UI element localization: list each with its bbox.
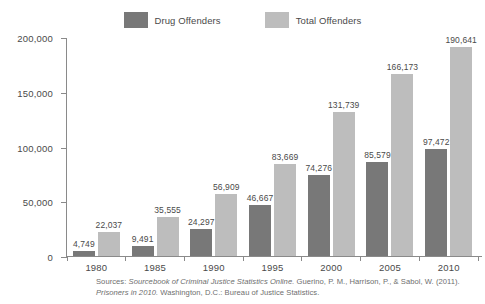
bar-value-label: 190,641 (445, 35, 476, 45)
bar-2000-drug[interactable]: 74,276 (308, 175, 330, 256)
x-axis-label-1985: 1985 (126, 262, 185, 273)
bar-2005-drug[interactable]: 85,579 (366, 162, 388, 256)
x-axis-label-2005: 2005 (361, 262, 420, 273)
bar-rect (366, 162, 388, 256)
bar-group-2000: 74,276131,739 (302, 38, 361, 256)
bar-1990-total[interactable]: 56,909 (215, 194, 237, 256)
chart-legend: Drug Offenders Total Offenders (0, 10, 485, 30)
bar-value-label: 74,276 (305, 163, 332, 173)
bar-rect (215, 194, 237, 256)
bar-1995-drug[interactable]: 46,667 (249, 205, 271, 256)
bar-rect (190, 229, 212, 256)
bar-value-label: 46,667 (247, 193, 274, 203)
legend-swatch-total-offenders (265, 12, 289, 28)
bar-1985-drug[interactable]: 9,491 (132, 246, 154, 256)
y-axis-tick-label: 100,000 (17, 142, 53, 153)
x-axis-label-1990: 1990 (184, 262, 243, 273)
bar-groups: 4,74922,0379,49135,55524,29756,90946,667… (67, 38, 478, 256)
bar-value-label: 24,297 (188, 217, 215, 227)
x-axis-label-2000: 2000 (302, 262, 361, 273)
bar-rect (391, 74, 413, 256)
legend-label-drug-offenders: Drug Offenders (155, 15, 221, 26)
bar-2005-total[interactable]: 166,173 (391, 74, 413, 256)
bar-group-2010: 97,472190,641 (419, 38, 478, 256)
source-note: Sources: Sourcebook of Criminal Justice … (96, 277, 479, 298)
x-axis-label-1995: 1995 (243, 262, 302, 273)
bar-value-label: 166,173 (387, 62, 418, 72)
source-title-2: Prisoners in 2010. (96, 288, 158, 297)
bar-group-1980: 4,74922,037 (67, 38, 126, 256)
bar-rect (450, 47, 472, 256)
bar-rect (274, 164, 296, 256)
y-axis-tick-label: 0 (48, 252, 53, 263)
bar-1985-total[interactable]: 35,555 (157, 217, 179, 256)
bar-value-label: 35,555 (154, 205, 181, 215)
bar-1995-total[interactable]: 83,669 (274, 164, 296, 256)
chart-plot-area: 050,000100,000150,000200,000 4,74922,037… (66, 38, 478, 257)
bar-2010-drug[interactable]: 97,472 (425, 149, 447, 256)
bar-rect (333, 112, 355, 256)
y-axis-tick-label: 150,000 (17, 87, 53, 98)
bar-rect (308, 175, 330, 256)
bar-rect (157, 217, 179, 256)
source-authors: Guerino, P. M., Harrison, P., & Sabol, W… (294, 277, 459, 286)
legend-item-total-offenders: Total Offenders (265, 12, 362, 28)
bar-1990-drug[interactable]: 24,297 (190, 229, 212, 256)
bar-group-1995: 46,66783,669 (243, 38, 302, 256)
y-axis-tick-label: 50,000 (23, 197, 53, 208)
bar-rect (73, 251, 95, 256)
source-publisher: Washington, D.C.: Bureau of Justice Stat… (158, 288, 319, 297)
bar-value-label: 131,739 (328, 100, 359, 110)
bar-value-label: 9,491 (132, 234, 154, 244)
bar-rect (425, 149, 447, 256)
x-axis-label-1980: 1980 (67, 262, 126, 273)
x-axis-labels: 1980198519901995200020052010 (67, 262, 478, 273)
x-axis-label-2010: 2010 (419, 262, 478, 273)
bar-1980-drug[interactable]: 4,749 (73, 251, 95, 256)
bar-rect (249, 205, 271, 256)
source-prefix: Sources: (96, 277, 129, 286)
legend-label-total-offenders: Total Offenders (296, 15, 362, 26)
bar-value-label: 83,669 (272, 152, 299, 162)
bar-value-label: 4,749 (73, 239, 95, 249)
bar-2010-total[interactable]: 190,641 (450, 47, 472, 256)
legend-swatch-drug-offenders (124, 12, 148, 28)
y-axis-tick-label: 200,000 (17, 33, 53, 44)
bar-rect (132, 246, 154, 256)
bar-value-label: 56,909 (213, 182, 240, 192)
bar-group-1985: 9,49135,555 (126, 38, 185, 256)
bar-group-1990: 24,29756,909 (184, 38, 243, 256)
bar-value-label: 97,472 (423, 137, 450, 147)
bar-2000-total[interactable]: 131,739 (333, 112, 355, 256)
source-title-1: Sourcebook of Criminal Justice Statistic… (129, 277, 295, 286)
legend-item-drug-offenders: Drug Offenders (124, 12, 221, 28)
bar-rect (98, 232, 120, 256)
bar-value-label: 22,037 (96, 220, 123, 230)
bar-1980-total[interactable]: 22,037 (98, 232, 120, 256)
bar-value-label: 85,579 (364, 150, 391, 160)
bar-group-2005: 85,579166,173 (361, 38, 420, 256)
